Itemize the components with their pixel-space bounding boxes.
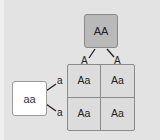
offspring-genotype: Aa: [78, 74, 91, 86]
punnett-grid: Aa Aa Aa Aa: [67, 64, 135, 131]
top-parent-genotype: AA: [94, 25, 109, 37]
offspring-cell: Aa: [68, 98, 101, 131]
offspring-genotype: Aa: [78, 107, 91, 119]
left-allele-bottom: a: [57, 108, 63, 118]
offspring-genotype: Aa: [111, 74, 124, 86]
offspring-cell: Aa: [101, 65, 134, 98]
left-parent-genotype: aa: [23, 93, 35, 105]
top-parent-box: AA: [84, 14, 118, 48]
offspring-cell: Aa: [68, 65, 101, 98]
offspring-cell: Aa: [101, 98, 134, 131]
left-parent-box: aa: [12, 81, 47, 116]
left-allele-top: a: [57, 76, 63, 86]
offspring-genotype: Aa: [111, 107, 124, 119]
